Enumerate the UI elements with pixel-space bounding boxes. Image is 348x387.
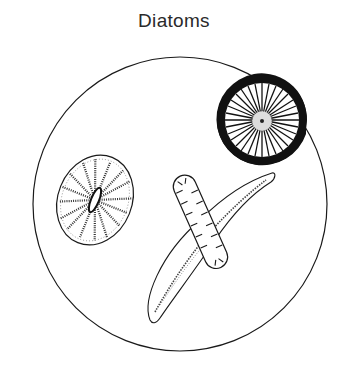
radial-diatom xyxy=(216,73,307,165)
diatom-illustration xyxy=(0,0,348,387)
elliptical-diatom xyxy=(43,143,146,256)
